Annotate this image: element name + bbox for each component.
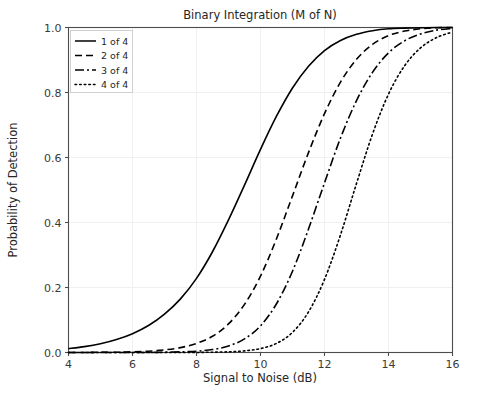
y-tick-label: 0.2: [44, 282, 62, 295]
x-tick-label: 6: [129, 358, 136, 371]
chart-title: Binary Integration (M of N): [183, 8, 337, 22]
x-tick-label: 8: [193, 358, 200, 371]
legend-label-1: 1 of 4: [101, 36, 128, 47]
x-tick-label: 4: [65, 358, 72, 371]
legend-label-4: 4 of 4: [101, 79, 128, 90]
y-axis-label: Probability of Detection: [6, 122, 20, 257]
x-tick-label: 10: [254, 358, 268, 371]
y-tick-labels: 0.00.20.40.60.81.0: [44, 22, 62, 360]
x-tick-label: 12: [318, 358, 332, 371]
legend-label-3: 3 of 4: [101, 65, 128, 76]
legend-label-2: 2 of 4: [101, 50, 128, 61]
x-tick-label: 16: [446, 358, 460, 371]
y-tick-label: 0.8: [44, 87, 62, 100]
x-tick-label: 14: [382, 358, 396, 371]
x-tick-labels: 46810121416: [65, 358, 460, 371]
legend[interactable]: 1 of 42 of 43 of 44 of 4: [71, 31, 133, 93]
chart-svg: 46810121416 0.00.20.40.60.81.0 Binary In…: [0, 0, 483, 394]
x-axis-label: Signal to Noise (dB): [203, 371, 317, 385]
y-tick-label: 0.0: [44, 347, 62, 360]
y-tick-label: 0.4: [44, 217, 62, 230]
y-tick-label: 0.6: [44, 152, 62, 165]
figure-canvas: 46810121416 0.00.20.40.60.81.0 Binary In…: [0, 0, 483, 394]
y-tick-label: 1.0: [44, 22, 62, 35]
